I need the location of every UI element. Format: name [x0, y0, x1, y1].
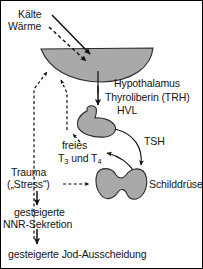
tsh-arrow — [115, 129, 141, 165]
thyroid-regulation-diagram: Kälte Wärme Hypothalamus Thyroliberin (T… — [0, 0, 203, 269]
label-schilddruese: Schilddrüse — [149, 178, 203, 190]
label-trauma: Trauma — [11, 166, 46, 178]
label-freies: freies — [62, 139, 87, 151]
label-waerme: Wärme — [8, 20, 41, 32]
label-t3-und-t4: T3 und T4 — [58, 152, 101, 164]
t4-subscript: 4 — [97, 157, 101, 166]
label-thyroliberin-trh: Thyroliberin (TRH) — [105, 91, 190, 103]
label-hvl: HVL — [117, 104, 137, 116]
label-hypothalamus: Hypothalamus — [114, 77, 180, 89]
kaelte-arrow — [52, 15, 90, 54]
t3-t4-middle: und T — [68, 152, 97, 164]
label-nnr-line1: gesteigerte — [14, 206, 65, 218]
t3-subscript: 3 — [64, 157, 68, 166]
label-tsh: TSH — [144, 135, 165, 147]
label-kaelte: Kälte — [18, 8, 41, 20]
feedback-inner-to-hypothalamus — [61, 80, 67, 130]
schilddruese-organ — [96, 169, 147, 200]
label-nnr-line2: NNR-Sekretion — [3, 218, 72, 230]
label-stress: („Stress“) — [7, 178, 50, 190]
hypophyse-organ — [77, 106, 115, 137]
label-jod-ausscheidung: gesteigerte Jod-Ausscheidung — [8, 248, 146, 260]
